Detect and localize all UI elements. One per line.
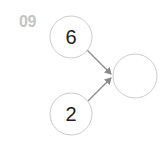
node-top-value: 6 bbox=[65, 26, 76, 48]
node-bottom: 2 bbox=[50, 93, 92, 135]
node-result[interactable] bbox=[113, 54, 157, 98]
arrow-bottom-to-result bbox=[88, 78, 111, 101]
arrow-top-to-result bbox=[87, 50, 111, 74]
node-bottom-value: 2 bbox=[65, 103, 76, 125]
number-diagram: 6 2 bbox=[0, 0, 161, 150]
node-top: 6 bbox=[50, 16, 92, 58]
